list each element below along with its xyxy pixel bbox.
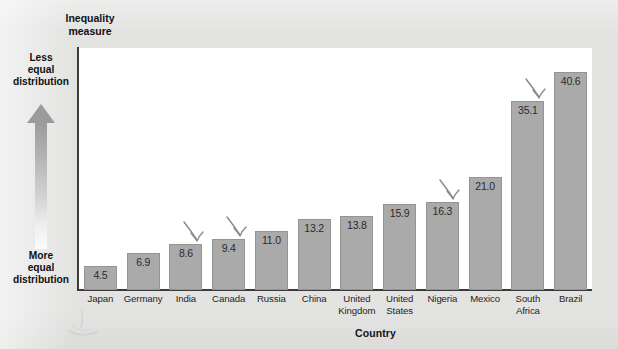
y-axis-bottom-label-line-3: distribution [8,274,74,286]
bar[interactable]: 11.0 [255,231,288,290]
y-axis-top-label: Less equal distribution [8,52,74,88]
arrow-head [27,104,55,123]
x-axis-tick-label-line: Africa [507,305,550,317]
bar-slot: 16.3 [421,48,464,290]
x-axis-tick-label: Mexico [464,293,507,325]
x-axis-tick-label-line: Brazil [549,293,592,305]
x-axis-tick-label-line: Japan [79,293,122,305]
bar-value-label: 9.4 [222,243,236,289]
bar-slot: 11.0 [250,48,293,290]
bar-slot: 4.5 [79,48,122,290]
bar[interactable]: 13.2 [298,219,331,290]
x-axis-tick-label: UnitedKingdom [336,293,379,325]
x-axis-title: Country [0,327,618,339]
bar-slot: 9.4 [207,48,250,290]
hand-drawn-arrow-annotation-icon [182,221,206,243]
x-axis-tick-label-line: China [293,293,336,305]
bar-slot: 35.1 [507,48,550,290]
bar-slot: 15.9 [378,48,421,290]
bar[interactable]: 6.9 [127,253,160,290]
x-axis-tick-label-line: States [378,305,421,317]
x-axis-tick-label-line: United [336,293,379,305]
bar[interactable]: 40.6 [554,72,587,290]
bar-value-label: 6.9 [136,257,150,289]
bar-slot: 6.9 [122,48,165,290]
y-axis-title: Inequality measure [48,12,132,37]
y-axis-bottom-label: More equal distribution [8,250,74,286]
x-axis-tick-label: China [293,293,336,325]
y-axis-bottom-label-line-1: More [8,250,74,262]
bar[interactable]: 15.9 [383,204,416,290]
y-axis-title-line-2: measure [48,25,132,38]
hand-drawn-arrow-annotation-icon [524,78,548,100]
x-axis-tick-label: Germany [122,293,165,325]
bar[interactable]: 9.4 [212,239,245,290]
bar[interactable]: 4.5 [84,266,117,290]
bar-value-label: 21.0 [475,181,495,289]
x-axis-tick-label-line: Mexico [464,293,507,305]
x-axis-tick-label-line: Russia [250,293,293,305]
bar[interactable]: 13.8 [340,216,373,290]
bar-value-label: 11.0 [262,235,281,289]
bar-value-label: 40.6 [561,76,581,289]
y-axis-bottom-label-line-2: equal [8,262,74,274]
x-axis-tick-label-line: Nigeria [421,293,464,305]
x-axis-tick-label: Nigeria [421,293,464,325]
arrow-shaft [35,122,47,249]
x-axis-tick-label-line: Kingdom [336,305,379,317]
x-axis-tick-label-line: India [165,293,208,305]
x-axis-tick-label: UnitedStates [378,293,421,325]
hand-drawn-arrow-annotation-icon [225,216,249,238]
x-axis-tick-label-line: Canada [207,293,250,305]
y-axis-top-label-line-2: equal [8,64,74,76]
bar[interactable]: 8.6 [169,244,202,290]
y-axis-title-line-1: Inequality [48,12,132,25]
bar-slot: 13.8 [336,48,379,290]
bar-value-label: 35.1 [518,105,538,289]
x-axis-tick-label: SouthAfrica [507,293,550,325]
bar-value-label: 15.9 [390,208,410,289]
y-axis-top-label-line-1: Less [8,52,74,64]
x-axis-tick-label: Japan [79,293,122,325]
inequality-direction-arrow-icon [27,104,55,249]
x-axis-tick-labels: JapanGermanyIndiaCanadaRussiaChinaUnited… [79,293,592,325]
hand-drawn-arrow-annotation-icon [438,179,462,201]
x-axis-tick-label-line: United [378,293,421,305]
bar[interactable]: 16.3 [426,202,459,290]
y-axis-top-label-line-3: distribution [8,76,74,88]
x-axis-tick-label-line: Germany [122,293,165,305]
bar-chart-figure: Inequality measure Less equal distributi… [0,0,618,349]
x-axis-tick-label: Russia [250,293,293,325]
bar-slot: 40.6 [549,48,592,290]
bar-slot: 13.2 [293,48,336,290]
x-axis-tick-label: Brazil [549,293,592,325]
x-axis-tick-label: India [165,293,208,325]
bar-value-label: 13.2 [304,223,324,289]
bar-value-label: 4.5 [93,270,107,289]
bar-slot: 21.0 [464,48,507,290]
x-axis-tick-label-line: South [507,293,550,305]
bar-series: 4.56.98.69.411.013.213.815.916.321.035.1… [79,48,592,290]
bar-value-label: 13.8 [347,220,367,289]
bar-value-label: 8.6 [179,248,193,289]
bar[interactable]: 35.1 [511,101,544,290]
bar-value-label: 16.3 [433,206,453,289]
bar[interactable]: 21.0 [469,177,502,290]
bar-slot: 8.6 [165,48,208,290]
x-axis-tick-label: Canada [207,293,250,325]
